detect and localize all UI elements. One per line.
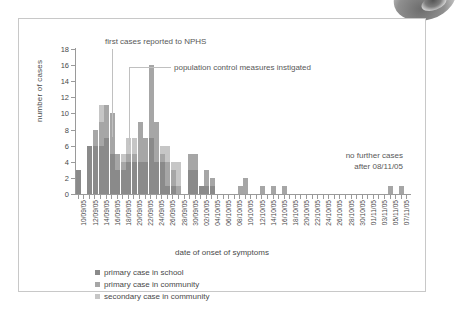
x-axis-tick [323, 195, 324, 199]
x-axis-tick-label: 30/09/05 [192, 200, 199, 226]
bar [138, 122, 143, 194]
x-axis-tick-label: 14/09/05 [103, 200, 110, 226]
bar [93, 130, 98, 194]
legend-item-label: primary case in community [104, 280, 199, 289]
bar [282, 186, 287, 194]
bar [171, 162, 176, 194]
annotation-population-control-leader-vertical [129, 67, 130, 145]
x-axis-tick [312, 195, 313, 199]
x-axis-tick [356, 195, 357, 199]
x-axis-tick [378, 195, 379, 199]
y-axis-tick [71, 49, 75, 50]
bar-segment [171, 162, 176, 170]
x-axis-tick [122, 195, 123, 199]
bar-segment [282, 186, 287, 194]
x-axis-tick [295, 195, 296, 199]
x-axis-tick [395, 195, 396, 199]
bar-segment [171, 186, 176, 194]
bar-segment [104, 105, 109, 137]
y-axis-tick [71, 65, 75, 66]
y-axis-tick [71, 97, 75, 98]
x-axis-tick [261, 195, 262, 199]
bar-segment [388, 186, 393, 194]
bar [154, 122, 159, 194]
x-axis-tick [156, 195, 157, 199]
x-axis-tick [133, 195, 134, 199]
x-axis-tick [211, 195, 212, 199]
bar [238, 186, 243, 194]
bar-segment [399, 186, 404, 194]
bar-segment [138, 162, 143, 194]
bar [132, 138, 137, 194]
x-axis-tick-label: 12/10/05 [259, 200, 266, 226]
bar [199, 186, 204, 194]
bar-segment [99, 122, 104, 146]
x-axis-tick-label: 18/09/05 [125, 200, 132, 226]
x-axis-tick [200, 195, 201, 199]
x-axis-tick [273, 195, 274, 199]
x-axis-tick [278, 195, 279, 199]
square-swatch-icon [95, 294, 100, 299]
x-axis-tick [345, 195, 346, 199]
bar-segment [171, 170, 176, 186]
bar-segment [165, 162, 170, 186]
bar-segment [132, 154, 137, 162]
bar-segment [160, 154, 165, 162]
x-axis-tick-label: 18/10/05 [292, 200, 299, 226]
bar [388, 186, 393, 194]
bar-segment [199, 186, 204, 194]
bar [99, 105, 104, 194]
bar-segment [193, 154, 198, 170]
x-axis-tick-label: 12/09/05 [92, 200, 99, 226]
y-axis-tick-label: 4 [49, 157, 69, 166]
bar [204, 170, 209, 194]
annotation-population-control-leader-horizontal [129, 67, 171, 68]
y-axis-tick [71, 130, 75, 131]
x-axis-tick-label: 22/09/05 [147, 200, 154, 226]
chart-legend: primary case in schoolprimary case in co… [95, 266, 209, 302]
x-axis-tick [317, 195, 318, 199]
bar-segment [149, 65, 154, 138]
chart-frame: number of cases 024681012141618 10/09/05… [18, 18, 426, 292]
x-axis-tick [117, 195, 118, 199]
x-axis-tick-label: 20/09/05 [136, 200, 143, 226]
bar [193, 154, 198, 194]
bar-segment [210, 186, 215, 194]
x-axis-tick-label: 14/10/05 [270, 200, 277, 226]
y-axis-tick [71, 81, 75, 82]
x-axis-tick [250, 195, 251, 199]
bar-segment [149, 138, 154, 194]
legend-item: primary case in community [95, 278, 209, 290]
bar [399, 186, 404, 194]
x-axis-tick-label: 03/11/05 [381, 200, 388, 225]
x-axis-tick [223, 195, 224, 199]
x-axis-tick [195, 195, 196, 199]
bar [76, 170, 81, 194]
bar-segment [138, 122, 143, 162]
annotation-first-cases: first cases reported to NPHS [105, 37, 206, 46]
bar-segment [115, 170, 120, 194]
bar-segment [260, 186, 265, 194]
bar-segment [121, 154, 126, 162]
square-swatch-icon [95, 270, 100, 275]
x-axis-tick [161, 195, 162, 199]
bar-segment [87, 146, 92, 194]
x-axis-tick-label: 05/11/05 [392, 200, 399, 225]
bar [260, 186, 265, 194]
x-axis-tick [94, 195, 95, 199]
x-axis-tick-label: 22/10/05 [314, 200, 321, 226]
x-axis-tick-label: 16/10/05 [281, 200, 288, 226]
bar-segment [126, 154, 131, 162]
x-axis-title: date of onset of symptoms [19, 248, 425, 257]
x-axis-tick-label: 10/09/05 [80, 200, 87, 226]
bar-segment [93, 130, 98, 146]
bar-segment [243, 178, 248, 194]
x-axis-tick [106, 195, 107, 199]
x-axis-tick [217, 195, 218, 199]
bar-segment [115, 154, 120, 170]
legend-item: primary case in school [95, 266, 209, 278]
x-axis-tick [150, 195, 151, 199]
y-axis-title: number of cases [35, 60, 44, 122]
x-axis-tick-label: 26/10/05 [336, 200, 343, 226]
